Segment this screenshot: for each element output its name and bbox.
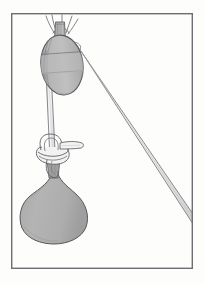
knot-tail xyxy=(60,142,83,150)
pulley-block-illustration xyxy=(0,0,205,284)
illustration-page xyxy=(0,0,205,284)
page-background xyxy=(0,0,205,284)
